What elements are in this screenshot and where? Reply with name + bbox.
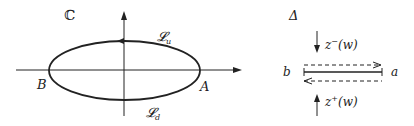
endpoint-b-label: b (283, 65, 291, 79)
z-minus-label: z−(w) (324, 37, 358, 52)
down-arrow-icon (314, 45, 320, 53)
plane-label: ℂ (64, 7, 75, 23)
real-axis-arrow-icon (233, 67, 242, 73)
contour-upper-label: 𝓛u (157, 29, 171, 46)
point-a-label: A (199, 79, 209, 94)
contour-lower-label: 𝓛d (146, 105, 160, 122)
interval-panel: Δ z−(w) b a z+(w) (283, 8, 398, 116)
delta-label: Δ (288, 8, 298, 23)
contour-direction-arrow-icon (117, 38, 124, 44)
imaginary-axis-arrow-icon (121, 11, 127, 20)
endpoint-a-label: a (391, 65, 398, 79)
complex-plane: ℂ 𝓛u 𝓛d A B (16, 7, 242, 122)
up-arrow-icon (314, 94, 320, 102)
point-b-label: B (36, 77, 47, 92)
diagram-canvas: ℂ 𝓛u 𝓛d A B Δ z−(w) b a z+(w) (0, 0, 414, 126)
z-plus-label: z+(w) (324, 94, 358, 109)
